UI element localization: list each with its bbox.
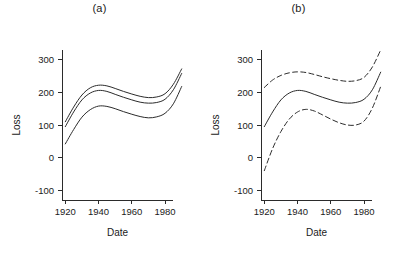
x-axis-title: Date <box>306 227 328 238</box>
panel-a-plot: -10001002003001920194019601980DateLoss <box>0 0 199 257</box>
y-axis-title: Loss <box>210 114 221 135</box>
y-tick-label: 200 <box>38 87 54 98</box>
x-tick-label: 1940 <box>88 206 109 217</box>
y-tick-label: 0 <box>248 152 253 163</box>
y-tick-label: -100 <box>35 185 54 196</box>
curve-upper-confidence-band <box>264 50 380 88</box>
x-tick-label: 1960 <box>121 206 142 217</box>
x-tick-label: 1920 <box>254 206 275 217</box>
y-axis-title: Loss <box>11 114 22 135</box>
y-tick-label: 300 <box>237 54 253 65</box>
curve-fitted-curve <box>264 72 380 126</box>
curve-lower-band <box>65 87 181 144</box>
y-tick-label: 0 <box>49 152 54 163</box>
y-tick-label: 100 <box>237 120 253 131</box>
curve-fitted-curve <box>65 73 181 126</box>
y-tick-label: 100 <box>38 120 54 131</box>
x-tick-label: 1940 <box>287 206 308 217</box>
figure-container: (a) -10001002003001920194019601980DateLo… <box>0 0 398 257</box>
x-tick-label: 1960 <box>320 206 341 217</box>
y-tick-label: -100 <box>234 185 253 196</box>
panel-b-plot: -10001002003001920194019601980DateLoss <box>199 0 398 257</box>
panel-b: (b) -10001002003001920194019601980DateLo… <box>199 0 398 257</box>
y-tick-label: 300 <box>38 54 54 65</box>
x-tick-label: 1980 <box>353 206 374 217</box>
x-tick-label: 1920 <box>55 206 76 217</box>
y-tick-label: 200 <box>237 87 253 98</box>
x-tick-label: 1980 <box>154 206 175 217</box>
x-axis-title: Date <box>107 227 129 238</box>
panel-a: (a) -10001002003001920194019601980DateLo… <box>0 0 199 257</box>
